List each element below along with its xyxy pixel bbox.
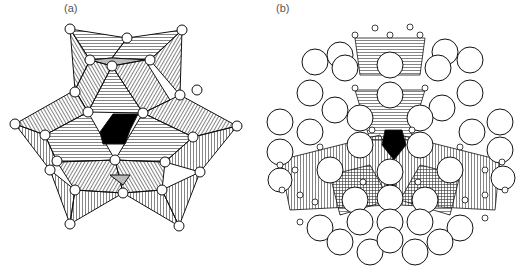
polyhedral-cluster-diagram (0, 0, 260, 278)
panel-a: (a) (0, 0, 260, 278)
sphere-cluster-diagram (260, 0, 523, 278)
panel-b: (b) (260, 0, 523, 278)
